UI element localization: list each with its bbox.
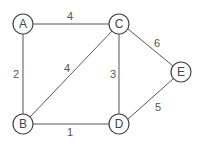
node-label: D xyxy=(115,117,124,131)
edge-weight-c-d: 3 xyxy=(110,68,116,80)
edge-weight-a-c: 4 xyxy=(67,10,73,22)
weighted-graph-diagram: 4 2 4 3 6 1 5 A B C D E xyxy=(0,0,204,144)
node-e: E xyxy=(171,62,191,82)
edge-weight-b-d: 1 xyxy=(67,126,73,138)
node-b: B xyxy=(13,114,33,134)
edge-c-e xyxy=(128,29,173,66)
node-label: E xyxy=(177,65,185,79)
edge-b-c xyxy=(30,31,112,117)
edge-weight-a-b: 2 xyxy=(13,68,19,80)
edge-d-e xyxy=(128,79,173,119)
node-label: C xyxy=(115,17,124,31)
node-label: B xyxy=(19,117,27,131)
edge-weight-c-e: 6 xyxy=(154,37,160,49)
node-c: C xyxy=(109,14,129,34)
node-d: D xyxy=(109,114,129,134)
edge-weight-d-e: 5 xyxy=(155,101,161,113)
node-label: A xyxy=(19,17,27,31)
edge-weight-b-c: 4 xyxy=(64,62,70,74)
node-a: A xyxy=(13,14,33,34)
